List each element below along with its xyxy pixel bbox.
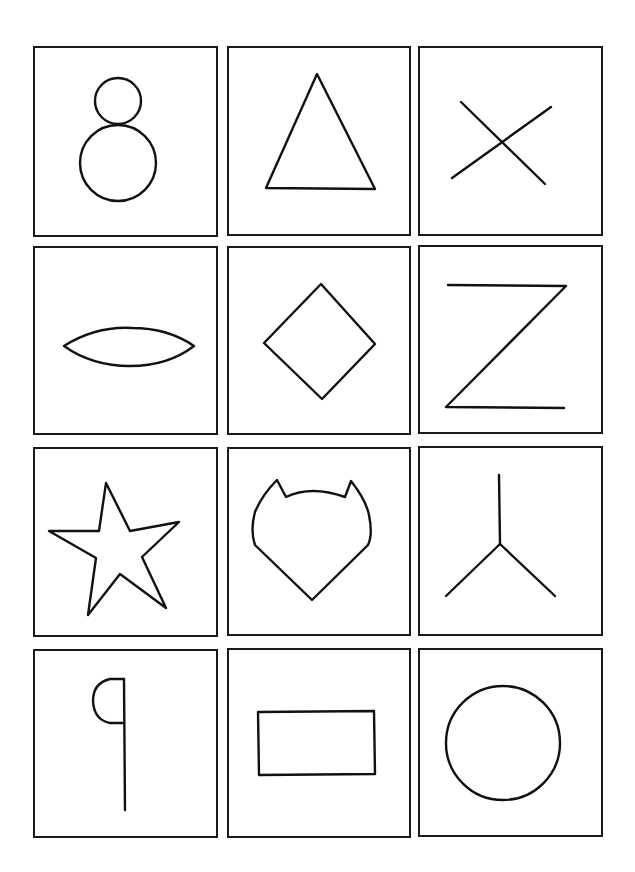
card-r2-c1[interactable] — [34, 247, 217, 434]
card-frame — [419, 47, 602, 235]
shape-card-grid — [0, 0, 635, 872]
card-r2-c2[interactable] — [228, 247, 410, 434]
card-r1-c2[interactable] — [228, 47, 410, 235]
card-r1-c1[interactable] — [34, 47, 217, 236]
card-r3-c2[interactable] — [228, 448, 410, 635]
card-frame — [34, 47, 217, 236]
card-frame — [34, 448, 217, 636]
card-frame — [419, 447, 602, 635]
card-frame — [228, 247, 410, 434]
card-r3-c1[interactable] — [34, 448, 217, 636]
card-frame — [228, 649, 410, 837]
card-r4-c1[interactable] — [34, 650, 217, 837]
card-r3-c3[interactable] — [419, 447, 602, 635]
card-frame — [228, 47, 410, 235]
card-r4-c2[interactable] — [228, 649, 410, 837]
card-frame — [34, 247, 217, 434]
card-r1-c3[interactable] — [419, 47, 602, 235]
card-r2-c3[interactable] — [419, 246, 602, 433]
card-r4-c3[interactable] — [419, 649, 602, 836]
card-frame — [228, 448, 410, 635]
